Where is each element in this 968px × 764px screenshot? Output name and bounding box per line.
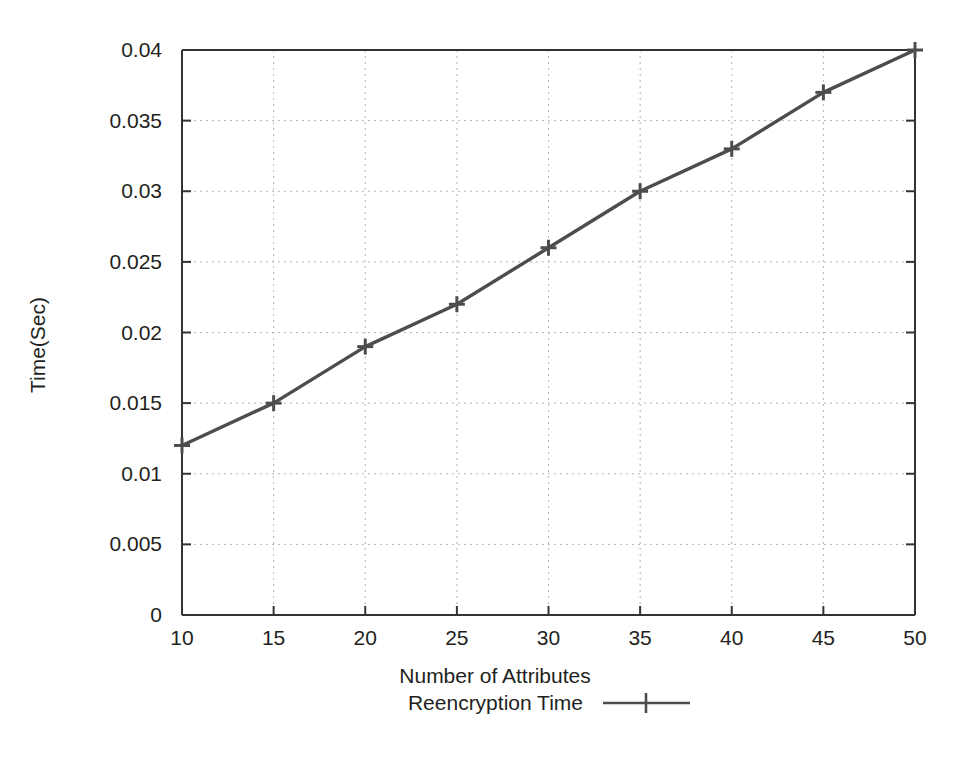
line-chart: 00.0050.010.0150.020.0250.030.0350.04 10… [0, 0, 968, 764]
x-tick-label: 25 [445, 626, 468, 649]
x-axis-title: Number of Attributes [399, 664, 590, 687]
y-tick-label: 0.015 [109, 391, 162, 414]
legend-label-reencryption-time: Reencryption Time [408, 691, 583, 714]
x-tick-label: 15 [262, 626, 285, 649]
y-tick-label: 0.035 [109, 109, 162, 132]
y-tick-label: 0 [150, 603, 162, 626]
x-tick-label: 30 [537, 626, 560, 649]
x-tick-label: 35 [628, 626, 651, 649]
x-tick-label: 10 [170, 626, 193, 649]
y-tick-label: 0.04 [121, 38, 162, 61]
y-tick-label: 0.03 [121, 179, 162, 202]
x-tick-label: 40 [720, 626, 743, 649]
chart-page: 00.0050.010.0150.020.0250.030.0350.04 10… [0, 0, 968, 764]
x-tick-label: 45 [812, 626, 835, 649]
x-tick-label: 50 [903, 626, 926, 649]
y-tick-label: 0.025 [109, 250, 162, 273]
y-tick-label: 0.005 [109, 532, 162, 555]
y-axis-title: Time(Sec) [26, 297, 49, 393]
y-tick-label: 0.01 [121, 462, 162, 485]
x-tick-label: 20 [354, 626, 377, 649]
y-tick-label: 0.02 [121, 321, 162, 344]
x-tick-labels: 101520253035404550 [170, 626, 926, 649]
